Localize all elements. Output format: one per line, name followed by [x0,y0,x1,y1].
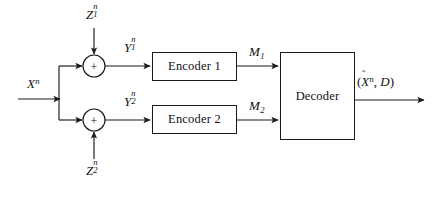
signal-label-x-sup: n [35,76,39,86]
signal-label-m2-base: M [249,98,260,113]
decoder-label: Decoder [296,89,340,104]
output-estimate-base: X [361,74,369,89]
output-distortion: D [380,74,389,89]
encoder-2-block[interactable]: Encoder 2 [152,105,237,134]
signal-label-z1-base: Z [86,7,93,22]
adder-1-plus-symbol: + [91,61,98,73]
wire-layer [0,0,432,200]
signal-label-y2-scripts: n2 [131,93,138,106]
signal-label-m2-sub: 2 [260,105,264,115]
signal-label-z1-sub: 1 [93,10,97,19]
signal-label-y2-sub: 2 [131,97,135,106]
signal-label-z2-base: Z [86,163,93,178]
signal-label-m1-base: M [249,44,260,59]
signal-label-z2-sub: 2 [93,166,97,175]
block-diagram-canvas: + + Encoder 1 Encoder 2 Decoder Zn1 Xn Y… [0,0,432,200]
output-estimate-group: X̂ [361,75,369,88]
decoder-block[interactable]: Decoder [280,52,355,140]
signal-label-y1: Yn1 [124,39,138,54]
signal-label-z1: Zn1 [86,6,100,21]
output-close-paren: ) [390,74,394,89]
signal-label-z2: Zn2 [86,162,100,177]
signal-label-m2: M2 [249,99,264,114]
signal-label-z2-scripts: n2 [93,162,100,175]
signal-label-x: Xn [27,77,40,90]
signal-label-x-base: X [27,76,35,91]
adder-2-plus-symbol: + [91,115,98,127]
signal-label-y1-sub: 1 [131,43,135,52]
signal-label-output: (X̂n, D) [357,75,394,88]
signal-label-y2: Yn2 [124,93,138,108]
encoder-1-label: Encoder 1 [168,59,221,74]
encoder-2-label: Encoder 2 [168,112,221,127]
signal-label-y2-base: Y [124,94,131,109]
encoder-1-block[interactable]: Encoder 1 [152,52,237,81]
signal-label-m1: M1 [249,45,264,60]
signal-label-y1-scripts: n1 [131,39,138,52]
signal-label-y1-base: Y [124,40,131,55]
signal-label-z1-scripts: n1 [93,6,100,19]
signal-label-m1-sub: 1 [260,51,264,61]
